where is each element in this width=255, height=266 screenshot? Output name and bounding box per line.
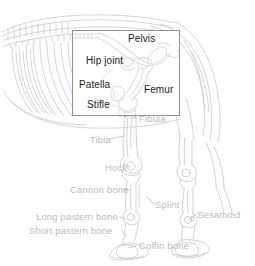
leader-short-pastern [122, 231, 126, 236]
label-cannon-bone: Cannon bone [70, 185, 129, 195]
label-coffin-bone: Coffin bone [139, 241, 189, 251]
leader-splint [146, 196, 154, 204]
label-hip-joint: Hip joint [86, 56, 123, 66]
label-splint: Splint [155, 200, 180, 210]
label-tibia: Tibia [90, 135, 111, 145]
outer-leader-lines [110, 118, 196, 248]
leader-tibia [110, 136, 124, 139]
figure-root: Pelvis Hip joint Patella Femur Stifle Fi… [0, 0, 255, 266]
label-patella: Patella [79, 80, 110, 90]
label-short-pastern-bone: Short pastern bone [29, 226, 113, 236]
leader-sesamoid [190, 215, 196, 218]
label-pelvis: Pelvis [128, 34, 155, 44]
label-long-pastern-bone: Long pastern bone [36, 212, 118, 222]
label-femur: Femur [144, 85, 173, 95]
label-sesamoid: Sesamoid [197, 210, 240, 220]
far-hind-limb-group [170, 96, 232, 258]
label-stifle: Stifle [87, 100, 110, 110]
label-fibula: Fibula [139, 114, 166, 124]
label-hock: Hock [105, 163, 127, 173]
